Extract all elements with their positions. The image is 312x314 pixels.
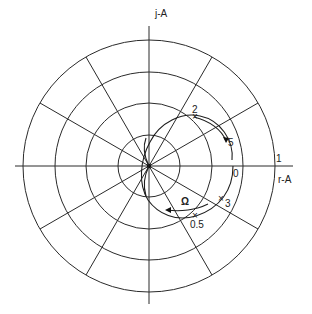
polar-diagram: × × × j-A r-A 1 0 0.5 2 3 5 Ω	[0, 0, 312, 314]
direction-arrowhead-icon	[165, 207, 171, 213]
point-label-5: 5	[228, 137, 234, 148]
tick-mark-3: ×	[218, 193, 224, 204]
point-label-0: 0	[233, 168, 239, 179]
omega-label: Ω	[181, 196, 189, 207]
imag-axis-label: j-A	[154, 8, 168, 19]
unit-circle-label: 1	[276, 153, 282, 164]
point-label-0-5: 0.5	[190, 219, 204, 230]
real-axis-label: r-A	[278, 174, 292, 185]
point-label-2: 2	[192, 104, 198, 115]
polar-plot: × × × j-A r-A 1 0 0.5 2 3 5 Ω	[0, 0, 312, 314]
point-label-3: 3	[225, 198, 231, 209]
